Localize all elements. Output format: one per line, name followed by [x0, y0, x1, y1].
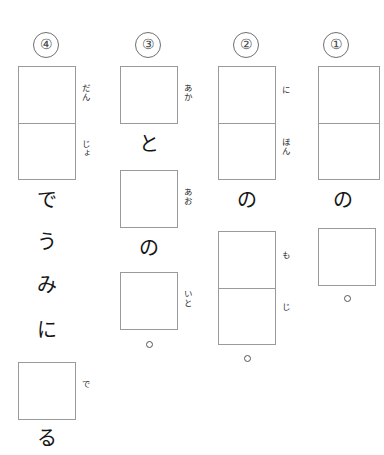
worksheet-column-2: ② に ほん の も じ [200, 0, 292, 455]
answer-box-3-1[interactable] [120, 66, 178, 124]
answer-box-2-1[interactable] [218, 66, 276, 180]
worksheet-column-1: ① の [300, 0, 384, 455]
furigana-ni: に [278, 86, 289, 95]
item-number-4: ④ [33, 32, 59, 58]
furigana-dan: だん [78, 84, 89, 102]
answer-box-4-2[interactable] [18, 362, 76, 420]
kana-ni: に [32, 320, 62, 340]
kana-no: の [328, 190, 358, 210]
furigana-ao: あお [180, 188, 191, 206]
worksheet-column-4: ④ だん じょ で う み に で る [0, 0, 92, 455]
item-number-2: ② [233, 32, 259, 58]
furigana-ji: じ [278, 303, 289, 312]
answer-box-1-2[interactable] [318, 228, 376, 286]
furigana-hon: ほん [278, 138, 289, 156]
kana-mi: み [32, 275, 62, 295]
answer-box-4-1[interactable] [18, 66, 76, 180]
box-divider [319, 123, 379, 124]
furigana-jo: じょ [78, 140, 89, 158]
item-number-3: ③ [135, 32, 161, 58]
answer-box-3-2[interactable] [120, 170, 178, 228]
item-number-1: ① [323, 32, 349, 58]
furigana-mo: も [278, 251, 289, 260]
box-divider [19, 123, 75, 124]
kana-to: と [134, 134, 164, 154]
answer-box-3-3[interactable] [120, 272, 178, 330]
answer-box-1-1[interactable] [318, 66, 380, 180]
sentence-period-3 [146, 341, 153, 348]
furigana-ito: いと [180, 290, 191, 308]
kana-de: で [32, 190, 62, 210]
sentence-period-1 [344, 295, 351, 302]
box-divider [219, 288, 275, 289]
kana-ru: る [32, 428, 62, 448]
kana-u: う [32, 232, 62, 252]
furigana-aka: あか [180, 84, 191, 102]
furigana-de: で [78, 380, 89, 389]
box-divider [219, 123, 275, 124]
kana-no: の [134, 238, 164, 258]
answer-box-2-2[interactable] [218, 231, 276, 345]
kana-no: の [232, 190, 262, 210]
worksheet-column-3: ③ あか と あお の いと [102, 0, 194, 455]
sentence-period-2 [244, 355, 251, 362]
